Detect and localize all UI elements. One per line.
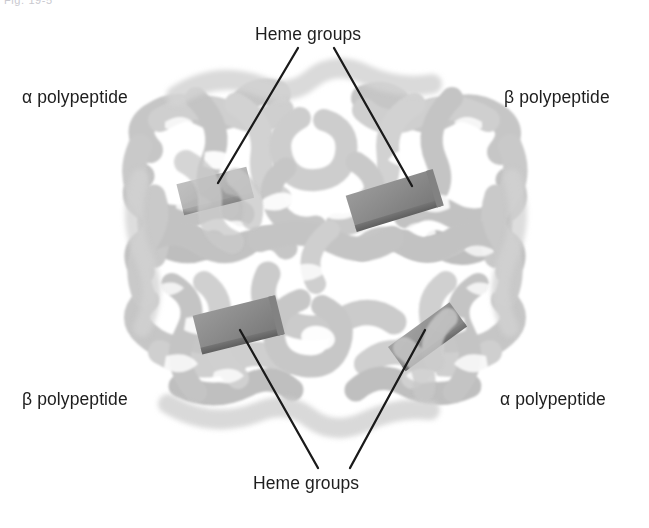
label-heme-groups-top: Heme groups [255, 25, 361, 44]
hemoglobin-illustration [0, 0, 649, 528]
label-beta-polypeptide-lower-left: β polypeptide [22, 390, 128, 409]
label-heme-groups-bottom: Heme groups [253, 474, 359, 493]
label-beta-polypeptide-upper-right: β polypeptide [504, 88, 610, 107]
label-alpha-polypeptide-upper-left: α polypeptide [22, 88, 128, 107]
hemoglobin-figure: Fig. 19-5 [0, 0, 649, 528]
label-alpha-polypeptide-lower-right: α polypeptide [500, 390, 606, 409]
